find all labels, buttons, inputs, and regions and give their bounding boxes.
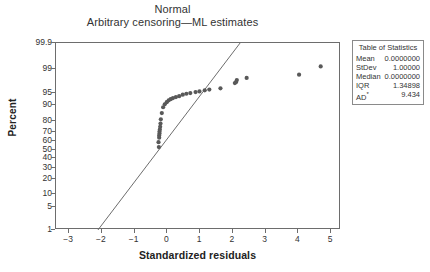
x-tick-mark bbox=[68, 229, 69, 233]
data-point bbox=[218, 86, 222, 90]
data-point bbox=[157, 145, 161, 149]
x-tick-label: −2 bbox=[91, 234, 111, 244]
data-point bbox=[319, 64, 323, 68]
fit-line bbox=[98, 43, 240, 230]
data-point bbox=[203, 88, 207, 92]
x-tick-mark bbox=[330, 229, 331, 233]
x-tick-mark bbox=[134, 229, 135, 233]
data-point-group bbox=[156, 64, 322, 149]
probability-plot-figure: Normal Arbitrary censoring—ML estimates … bbox=[0, 0, 430, 272]
data-point bbox=[197, 89, 201, 93]
data-point bbox=[297, 73, 301, 77]
statistic-label: Median bbox=[356, 72, 381, 81]
statistic-value: 0.0000000 bbox=[385, 54, 420, 63]
x-axis-title: Standardized residuals bbox=[55, 249, 340, 261]
statistic-value: 0.0000000 bbox=[385, 72, 420, 81]
x-tick-label: −1 bbox=[124, 234, 144, 244]
x-tick-label: 2 bbox=[222, 234, 242, 244]
y-tick-label: 99.9 bbox=[35, 38, 52, 46]
statistic-label: Mean bbox=[356, 54, 375, 63]
data-point bbox=[160, 111, 164, 115]
statistic-value: 1.34898 bbox=[393, 81, 420, 90]
data-point bbox=[177, 94, 181, 98]
statistics-table: Table of Statistics Mean0.0000000StDev1.… bbox=[352, 40, 424, 105]
data-point bbox=[181, 93, 185, 97]
x-tick-label: 3 bbox=[255, 234, 275, 244]
statistics-row: Mean0.0000000 bbox=[353, 54, 423, 63]
y-axis-tick-labels: 99.9999590807060504030201051 bbox=[4, 42, 52, 229]
chart-title: Normal bbox=[0, 3, 345, 15]
x-axis-tick-labels: −3−2−1012345 bbox=[55, 234, 340, 246]
statistics-table-heading: Table of Statistics bbox=[353, 42, 423, 54]
x-tick-mark bbox=[166, 229, 167, 233]
data-point bbox=[184, 92, 188, 96]
statistics-row: StDev1.00000 bbox=[353, 63, 423, 72]
x-tick-label: 5 bbox=[320, 234, 340, 244]
data-point bbox=[158, 121, 162, 125]
data-point bbox=[193, 90, 197, 94]
plot-area bbox=[55, 42, 340, 229]
statistics-row: AD*9.434 bbox=[353, 90, 423, 102]
plot-canvas bbox=[56, 43, 341, 230]
statistic-label-superscript: * bbox=[366, 91, 368, 97]
statistic-value: 1.00000 bbox=[393, 63, 420, 72]
x-tick-label: 1 bbox=[189, 234, 209, 244]
statistics-rows: Mean0.0000000StDev1.00000Median0.0000000… bbox=[353, 54, 423, 102]
statistic-value: 9.434 bbox=[401, 90, 420, 102]
statistics-row: IQR1.34898 bbox=[353, 81, 423, 90]
data-point bbox=[188, 91, 192, 95]
x-tick-mark bbox=[199, 229, 200, 233]
statistic-label: IQR bbox=[356, 81, 369, 90]
x-tick-mark bbox=[297, 229, 298, 233]
x-tick-mark bbox=[232, 229, 233, 233]
x-tick-label: −3 bbox=[58, 234, 78, 244]
statistics-row: Median0.0000000 bbox=[353, 72, 423, 81]
statistic-label: AD* bbox=[356, 90, 369, 102]
data-point bbox=[159, 117, 163, 121]
data-point bbox=[245, 76, 249, 80]
chart-subtitle: Arbitrary censoring—ML estimates bbox=[0, 16, 345, 28]
x-tick-mark bbox=[101, 229, 102, 233]
x-tick-label: 0 bbox=[156, 234, 176, 244]
data-point bbox=[156, 140, 160, 144]
x-tick-mark bbox=[265, 229, 266, 233]
statistic-label: StDev bbox=[356, 63, 376, 72]
data-point bbox=[235, 78, 239, 82]
x-tick-label: 4 bbox=[287, 234, 307, 244]
data-point bbox=[207, 87, 211, 91]
